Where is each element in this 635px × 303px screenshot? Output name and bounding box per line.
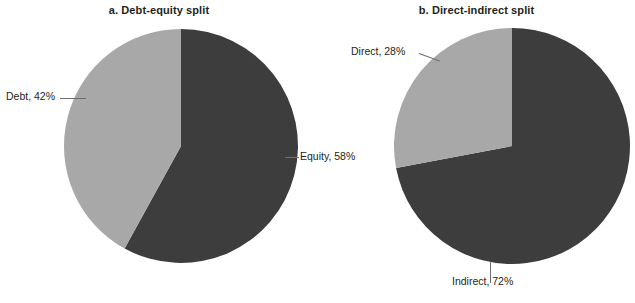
pie-label-direct: Direct, 28%: [351, 45, 405, 58]
leader-line-debt: [60, 98, 86, 99]
panel-debt-equity: a. Debt-equity split Debt, 42%: [0, 0, 318, 303]
pie-slice-direct: [394, 28, 512, 168]
pie-chart-figure: a. Debt-equity split Debt, 42% Equity, 5…: [0, 0, 635, 303]
pie-chart-a: [0, 0, 318, 303]
leader-line-equity: [285, 157, 299, 158]
pie-label-debt: Debt, 42%: [6, 90, 55, 103]
pie-label-indirect: Indirect, 72%: [452, 275, 513, 288]
